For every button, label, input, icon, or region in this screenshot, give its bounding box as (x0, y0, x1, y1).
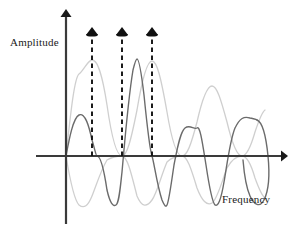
spectral-line-1 (86, 27, 98, 156)
x-axis-label: Frequency (222, 193, 270, 205)
spectral-line-2-arrowhead-base (116, 33, 128, 36)
x-axis-arrowhead (281, 151, 288, 162)
spectral-line-2 (116, 27, 128, 156)
spectral-line-3 (146, 27, 158, 156)
spectral-line-3-arrowhead-base (146, 33, 158, 36)
y-axis-arrowhead (61, 9, 72, 17)
spectral-line-1-arrowhead-base (86, 33, 98, 36)
curve-carrier-dark-tail (243, 120, 269, 205)
curve-carrier-light (66, 60, 265, 156)
figure-canvas: Amplitude Frequency (0, 0, 296, 235)
y-axis-label: Amplitude (10, 36, 59, 48)
